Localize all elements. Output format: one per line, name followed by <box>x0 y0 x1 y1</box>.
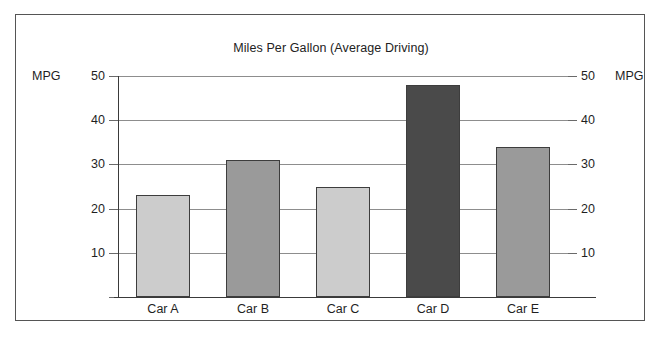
tick-right-20 <box>568 209 577 210</box>
bar-car-a[interactable] <box>136 195 190 297</box>
tick-left-20 <box>109 209 118 210</box>
gridline-40 <box>118 120 568 121</box>
y-tick-label-right-40: 40 <box>581 113 595 127</box>
bar-car-b[interactable] <box>226 160 280 297</box>
tick-left-50 <box>109 76 118 77</box>
x-axis-baseline <box>114 297 596 298</box>
x-tick-label-car-a: Car A <box>147 302 178 316</box>
bar-car-e[interactable] <box>496 147 550 297</box>
y-axis-spine <box>118 76 119 297</box>
y-axis-unit-left: MPG <box>32 69 60 83</box>
bar-car-c[interactable] <box>316 187 370 298</box>
x-tick-label-car-c: Car C <box>327 302 360 316</box>
y-tick-label-left-50: 50 <box>91 69 105 83</box>
chart-title: Miles Per Gallon (Average Driving) <box>16 41 646 55</box>
x-tick-label-car-b: Car B <box>237 302 269 316</box>
y-tick-label-left-10: 10 <box>91 246 105 260</box>
y-tick-label-right-20: 20 <box>581 202 595 216</box>
y-tick-label-left-30: 30 <box>91 157 105 171</box>
tick-right-30 <box>568 164 577 165</box>
y-tick-label-right-30: 30 <box>581 157 595 171</box>
y-tick-label-left-40: 40 <box>91 113 105 127</box>
y-tick-label-left-20: 20 <box>91 202 105 216</box>
tick-left-30 <box>109 164 118 165</box>
x-tick-label-car-d: Car D <box>417 302 450 316</box>
y-tick-label-right-50: 50 <box>581 69 595 83</box>
tick-left-10 <box>109 253 118 254</box>
tick-right-10 <box>568 253 577 254</box>
gridline-50 <box>118 76 568 77</box>
y-axis-unit-right: MPG <box>615 69 643 83</box>
x-tick-label-car-e: Car E <box>507 302 539 316</box>
tick-left-40 <box>109 120 118 121</box>
y-tick-label-right-10: 10 <box>581 246 595 260</box>
bar-car-d[interactable] <box>406 85 460 297</box>
tick-right-50 <box>568 76 577 77</box>
plot-area: 10102020303040405050 MPG MPG Car ACar BC… <box>118 70 568 303</box>
tick-right-40 <box>568 120 577 121</box>
chart-frame: Miles Per Gallon (Average Driving) 10102… <box>15 14 645 321</box>
